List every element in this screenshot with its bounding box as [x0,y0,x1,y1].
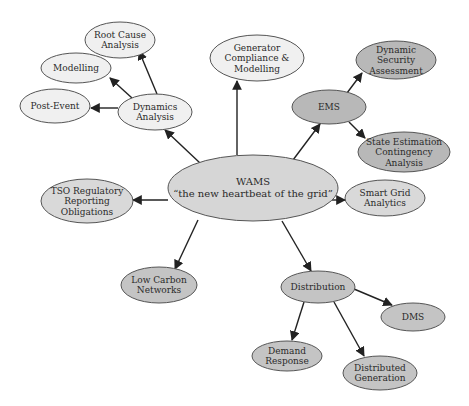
node-smart-grid: Smart GridAnalytics [345,180,425,216]
node-label-line: Distribution [291,282,346,292]
node-label-line: Response [265,356,309,366]
node-state-est: State EstimationContingencyAnalysis [358,132,450,172]
node-dist-gen: DistributedGeneration [343,356,417,390]
node-low-carbon: Low CarbonNetworks [121,267,197,303]
arrow-ems-to-state-est [349,122,365,138]
node-label-line: “the new heartbeat of the grid” [173,188,333,199]
node-label-line: Analysis [135,112,174,122]
node-label-line: Generator [234,43,281,53]
node-dms: DMS [381,303,445,331]
arrow-wams-to-dynamics [165,130,200,163]
node-label-line: DMS [402,312,425,322]
node-label-line: Analytics [363,198,406,208]
node-dsa: DynamicSecurityAssessment [356,41,436,79]
node-label-line: Dynamic [376,45,416,55]
arrow-distribution-to-demand-response [292,302,304,340]
arrow-wams-to-distribution [282,221,311,271]
node-generator: GeneratorCompliance &Modelling [210,35,304,81]
node-ems: EMS [292,90,366,124]
node-label-line: Assessment [368,66,423,76]
arrow-distribution-to-dms [354,289,392,305]
node-label-line: Root Cause [94,30,146,40]
node-label-line: Modelling [234,64,280,74]
arrow-dynamics-to-root-cause [139,51,157,94]
node-label-line: Smart Grid [360,188,411,198]
node-label-line: Low Carbon [131,275,187,285]
node-dynamics: DynamicsAnalysis [118,94,192,130]
node-label-line: Post-Event [31,101,80,111]
node-wams: WAMS“the new heartbeat of the grid” [168,155,338,221]
node-label-line: WAMS [236,176,270,187]
node-distribution: Distribution [281,271,355,303]
arrow-wams-to-low-carbon [175,220,198,269]
wams-mind-map: WAMS“the new heartbeat of the grid”Dynam… [0,0,469,406]
arrow-distribution-to-dist-gen [334,302,364,356]
node-tso: TSO RegulatoryReportingObligations [41,179,133,223]
node-label-line: Obligations [61,207,114,217]
node-label-line: Distributed [354,363,406,373]
node-root-cause: Root CauseAnalysis [85,22,155,58]
node-label-line: Generation [354,373,405,383]
node-demand-response: DemandResponse [252,341,322,371]
node-label-line: Security [377,55,416,65]
node-post-event: Post-Event [20,89,90,123]
node-label-line: Networks [137,285,182,295]
arrow-ems-to-dsa [347,73,362,93]
node-label-line: Analysis [384,158,423,168]
nodes: WAMS“the new heartbeat of the grid”Dynam… [20,22,450,390]
node-modelling: Modelling [41,53,111,83]
node-label-line: Demand [268,346,306,356]
node-label-line: TSO Regulatory [51,186,125,196]
node-label-line: Reporting [64,196,110,206]
node-label-line: State Estimation [366,137,442,147]
arrow-dynamics-to-modelling [110,78,132,98]
node-label-line: Analysis [100,40,139,50]
node-label-line: Modelling [53,63,99,73]
node-label-line: Dynamics [133,102,178,112]
node-label-line: EMS [318,102,340,112]
node-label-line: Contingency [375,147,433,157]
node-label-line: Compliance & [225,53,290,63]
